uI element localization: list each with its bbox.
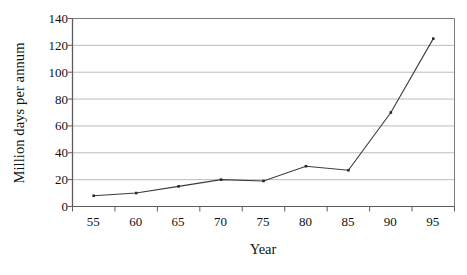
x-tick-label: 75 bbox=[257, 214, 270, 230]
data-point-marker bbox=[305, 165, 308, 168]
x-tick-label: 60 bbox=[129, 214, 142, 230]
axis-ticks bbox=[68, 19, 455, 212]
x-axis-tick-labels: 55 60 65 70 75 80 85 90 95 bbox=[72, 214, 454, 234]
data-point-marker bbox=[262, 180, 265, 183]
data-point-marker bbox=[432, 37, 435, 40]
data-point-marker bbox=[135, 192, 138, 195]
x-tick-label: 55 bbox=[87, 214, 100, 230]
data-point-marker bbox=[347, 169, 350, 172]
x-tick-label: 80 bbox=[299, 214, 312, 230]
data-point-marker bbox=[177, 185, 180, 188]
x-tick-label: 65 bbox=[172, 214, 185, 230]
data-point-marker bbox=[390, 111, 393, 114]
data-point-marker bbox=[220, 178, 223, 181]
grid-lines bbox=[73, 19, 455, 180]
x-tick-label: 70 bbox=[214, 214, 227, 230]
x-tick-label: 95 bbox=[426, 214, 439, 230]
data-point-markers bbox=[92, 37, 434, 197]
data-point-marker bbox=[92, 194, 95, 197]
x-tick-label: 90 bbox=[384, 214, 397, 230]
line-chart: Million days per annum 0 20 40 60 80 100… bbox=[0, 0, 467, 275]
x-tick-label: 85 bbox=[341, 214, 354, 230]
x-axis-title: Year bbox=[72, 240, 454, 258]
data-series-line bbox=[94, 39, 434, 196]
axis-lines bbox=[73, 19, 455, 207]
